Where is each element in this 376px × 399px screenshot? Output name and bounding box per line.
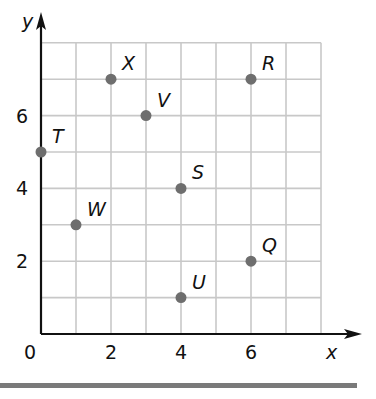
y-tick-label: 4 [16, 177, 28, 199]
point-label-x: X [121, 52, 136, 74]
point-r [246, 74, 257, 85]
bottom-divider [0, 383, 357, 388]
data-points: XRVTSWQU [36, 52, 278, 303]
point-label-w: W [87, 198, 107, 220]
point-u [176, 292, 187, 303]
origin-label: 0 [24, 341, 36, 363]
point-label-v: V [157, 89, 172, 111]
x-axis-label: x [325, 341, 338, 363]
coordinate-plane: yx0246246 XRVTSWQU [0, 0, 376, 399]
x-tick-label: 2 [105, 341, 117, 363]
point-s [176, 183, 187, 194]
point-v [141, 110, 152, 121]
x-tick-label: 4 [175, 341, 187, 363]
point-label-s: S [192, 161, 204, 183]
point-t [36, 147, 47, 158]
point-label-q: Q [262, 234, 277, 256]
y-axis-label: y [21, 10, 34, 32]
y-tick-label: 2 [16, 250, 28, 272]
y-tick-label: 6 [16, 105, 28, 127]
point-w [71, 219, 82, 230]
point-label-u: U [192, 271, 206, 293]
x-tick-label: 6 [245, 341, 257, 363]
point-label-r: R [262, 52, 275, 74]
point-x [106, 74, 117, 85]
point-q [246, 256, 257, 267]
point-label-t: T [52, 125, 65, 147]
